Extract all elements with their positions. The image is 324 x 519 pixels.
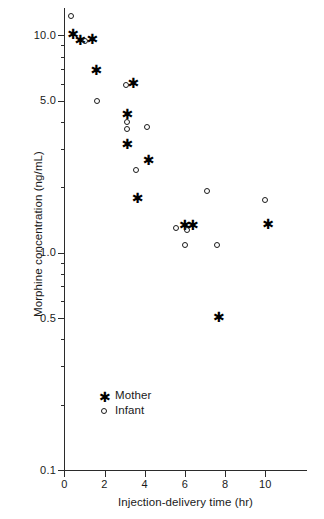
legend-item-infant: Infant bbox=[97, 403, 151, 418]
y-tick-minor bbox=[61, 301, 65, 302]
y-tick-major bbox=[58, 101, 65, 102]
x-tick-label: 8 bbox=[210, 479, 240, 490]
y-tick-major bbox=[58, 318, 65, 319]
y-tick-minor bbox=[61, 286, 65, 287]
y-tick-major bbox=[58, 35, 65, 36]
data-point-infant bbox=[182, 242, 188, 248]
data-point-infant bbox=[124, 126, 130, 132]
data-point-infant bbox=[133, 167, 139, 173]
x-tick-major bbox=[145, 471, 146, 477]
y-tick-minor bbox=[61, 84, 65, 85]
x-tick-label: 0 bbox=[49, 479, 79, 490]
legend-label-mother: Mother bbox=[111, 388, 151, 403]
legend-label-infant: Infant bbox=[111, 403, 144, 418]
x-tick-label: 6 bbox=[170, 479, 200, 490]
y-tick-minor bbox=[61, 274, 65, 275]
y-axis-line bbox=[64, 8, 65, 471]
data-point-infant bbox=[173, 225, 179, 231]
y-tick-label: 10.0 bbox=[34, 30, 56, 41]
data-point-infant bbox=[214, 242, 220, 248]
data-point-infant bbox=[262, 197, 268, 203]
x-tick-label: 10 bbox=[250, 479, 280, 490]
scatter-plot-figure: 10.05.01.00.50.1 0246810 ✱✱✱✱✱✱✱✱✱✱✱✱✱ M… bbox=[0, 0, 324, 519]
y-tick-minor bbox=[61, 122, 65, 123]
circle-icon bbox=[97, 408, 111, 414]
data-point-infant bbox=[68, 13, 74, 19]
x-tick-major bbox=[225, 471, 226, 477]
data-point-infant bbox=[94, 98, 100, 104]
x-tick-label: 2 bbox=[90, 479, 120, 490]
data-point-infant bbox=[124, 119, 130, 125]
y-tick-minor bbox=[61, 339, 65, 340]
data-point-infant bbox=[123, 82, 129, 88]
y-tick-label: 0.1 bbox=[40, 465, 56, 476]
data-point-infant bbox=[184, 227, 190, 233]
y-tick-minor bbox=[61, 149, 65, 150]
x-axis-title: Injection-delivery time (hr) bbox=[64, 496, 307, 508]
circle-glyph bbox=[101, 408, 107, 414]
star-icon: ✱ bbox=[97, 395, 111, 397]
y-tick-minor bbox=[61, 57, 65, 58]
x-tick-label: 4 bbox=[130, 479, 160, 490]
data-point-infant bbox=[204, 188, 210, 194]
y-tick-minor bbox=[61, 263, 65, 264]
y-tick-major bbox=[58, 253, 65, 254]
y-tick-minor bbox=[61, 187, 65, 188]
x-tick-major bbox=[265, 471, 266, 477]
data-point-infant bbox=[144, 124, 150, 130]
y-tick-label: 5.0 bbox=[40, 95, 56, 106]
x-tick-major bbox=[64, 471, 65, 477]
y-tick-minor bbox=[61, 69, 65, 70]
y-tick-minor bbox=[61, 45, 65, 46]
data-point-infant bbox=[82, 38, 88, 44]
chart-legend: ✱ Mother Infant bbox=[97, 388, 151, 418]
x-tick-major bbox=[185, 471, 186, 477]
y-axis-title: Morphine concentration (ng/mL) bbox=[32, 114, 44, 354]
legend-item-mother: ✱ Mother bbox=[97, 388, 151, 403]
y-tick-minor bbox=[61, 405, 65, 406]
x-tick-major bbox=[105, 471, 106, 477]
y-tick-minor bbox=[61, 366, 65, 367]
